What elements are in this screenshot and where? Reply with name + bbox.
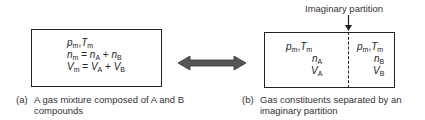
compartment-a-volume: VA	[311, 65, 322, 79]
caption-a: (a) A gas mixture composed of A and B co…	[16, 94, 216, 118]
caption-b-tag: (b)	[242, 94, 254, 105]
caption-a-line1: A gas mixture composed of A and B	[34, 94, 184, 105]
compartment-b-volume: VB	[373, 65, 384, 79]
caption-a-tag: (a)	[16, 94, 28, 105]
caption-b: (b) Gas constituents separated by an ima…	[242, 94, 425, 118]
imaginary-partition	[348, 32, 349, 88]
caption-a-line2: compounds	[34, 105, 83, 116]
partition-pointer-arrow-icon	[344, 15, 353, 32]
caption-b-line1: Gas constituents separated by an	[260, 94, 402, 105]
compartment-a-state: pm,Tm	[286, 41, 312, 55]
mixture-volume-equation: Vm = VA + VB	[67, 61, 125, 75]
caption-b-line2: imaginary partition	[260, 105, 338, 116]
partition-label: Imaginary partition	[305, 3, 383, 14]
double-arrow-icon	[178, 55, 246, 71]
